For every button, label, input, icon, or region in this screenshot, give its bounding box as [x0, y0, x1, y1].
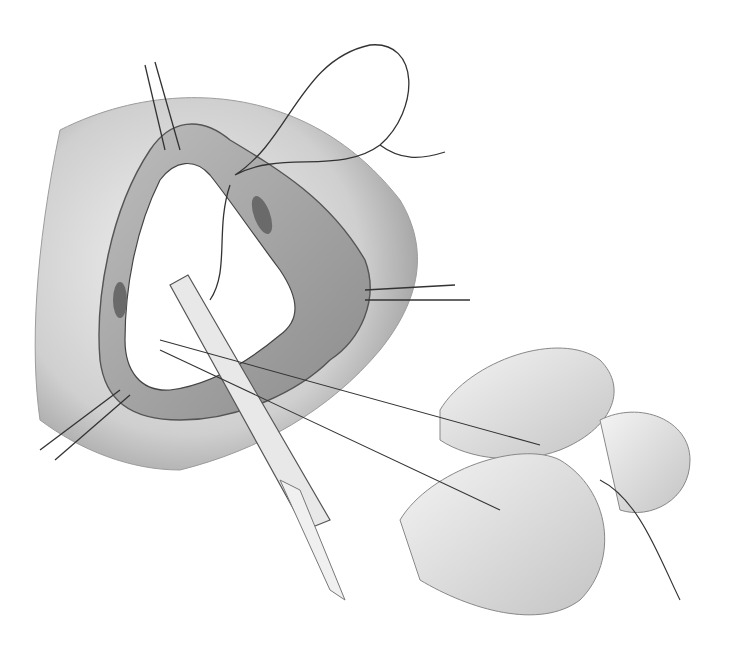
- gloved-fingers: [400, 348, 690, 615]
- surgical-illustration: [0, 0, 736, 645]
- illustration-canvas: [0, 0, 736, 645]
